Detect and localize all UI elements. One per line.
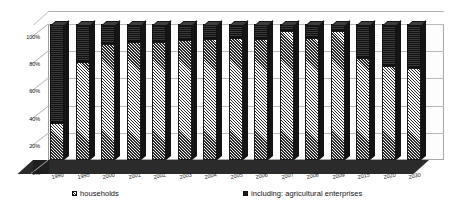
bar-column[interactable] (127, 24, 141, 160)
bar-segment-agricultural-enterprises[interactable] (50, 24, 64, 123)
bar-segment-households[interactable] (127, 42, 141, 160)
bar-column[interactable] (356, 24, 370, 160)
bar-side-face (141, 20, 146, 160)
bar-segment-agricultural-enterprises[interactable] (356, 24, 370, 58)
bar-segment-agricultural-enterprises[interactable] (127, 24, 141, 42)
chart-container: 0%20%40%60%80%100% 199019952000200120022… (0, 0, 456, 209)
bar-side-face (268, 20, 273, 160)
legend-label: including: agricultural enterprises (251, 189, 362, 198)
bar-segment-households[interactable] (229, 38, 243, 160)
bar-segment-households[interactable] (305, 38, 319, 160)
bar-side-face (166, 20, 171, 160)
bar-column[interactable] (331, 24, 345, 160)
bar-segment-households[interactable] (152, 42, 166, 160)
bar-side-face (370, 20, 375, 160)
chart-legend: householdsincluding: agricultural enterp… (0, 186, 456, 204)
bar-segment-agricultural-enterprises[interactable] (407, 24, 421, 68)
bar-column[interactable] (50, 24, 64, 160)
bar-segment-households[interactable] (203, 39, 217, 160)
bar-column[interactable] (101, 24, 115, 160)
bar-segment-agricultural-enterprises[interactable] (229, 24, 243, 38)
bar-segment-households[interactable] (407, 68, 421, 160)
bar-segment-agricultural-enterprises[interactable] (101, 24, 115, 44)
legend-item[interactable]: households (72, 189, 119, 198)
bar-segment-agricultural-enterprises[interactable] (203, 24, 217, 39)
bar-column[interactable] (254, 24, 268, 160)
bar-column[interactable] (76, 24, 90, 160)
bar-side-face (345, 20, 350, 160)
bar-segment-households[interactable] (331, 31, 345, 160)
bar-series-group (0, 0, 456, 182)
bar-segment-agricultural-enterprises[interactable] (382, 24, 396, 66)
bar-segment-agricultural-enterprises[interactable] (254, 24, 268, 39)
bar-segment-households[interactable] (50, 123, 64, 160)
bar-segment-households[interactable] (178, 40, 192, 160)
legend-swatch-icon (243, 191, 248, 196)
bar-side-face (192, 20, 197, 160)
bar-side-face (319, 20, 324, 160)
bar-side-face (243, 20, 248, 160)
bar-segment-agricultural-enterprises[interactable] (305, 24, 319, 38)
bar-column[interactable] (229, 24, 243, 160)
bar-side-face (115, 20, 120, 160)
bar-column[interactable] (203, 24, 217, 160)
bar-segment-households[interactable] (382, 66, 396, 160)
bar-column[interactable] (178, 24, 192, 160)
legend-label: households (80, 189, 119, 198)
bar-segment-households[interactable] (76, 62, 90, 160)
bar-segment-agricultural-enterprises[interactable] (178, 24, 192, 40)
bar-side-face (90, 20, 95, 160)
bar-column[interactable] (407, 24, 421, 160)
bar-column[interactable] (305, 24, 319, 160)
bar-column[interactable] (280, 24, 294, 160)
bar-side-face (64, 20, 69, 160)
bar-side-face (294, 20, 299, 160)
legend-swatch-icon (72, 191, 77, 196)
bar-segment-households[interactable] (254, 39, 268, 160)
bar-side-face (217, 20, 222, 160)
bar-segment-households[interactable] (101, 44, 115, 160)
bar-segment-households[interactable] (356, 58, 370, 160)
bar-side-face (421, 20, 426, 160)
bar-column[interactable] (382, 24, 396, 160)
bar-segment-agricultural-enterprises[interactable] (76, 24, 90, 62)
legend-item[interactable]: including: agricultural enterprises (243, 189, 362, 198)
bar-column[interactable] (152, 24, 166, 160)
bar-segment-agricultural-enterprises[interactable] (152, 24, 166, 42)
plot-area: 0%20%40%60%80%100% 199019952000200120022… (0, 0, 456, 182)
bar-segment-households[interactable] (280, 31, 294, 160)
bar-side-face (396, 20, 401, 160)
